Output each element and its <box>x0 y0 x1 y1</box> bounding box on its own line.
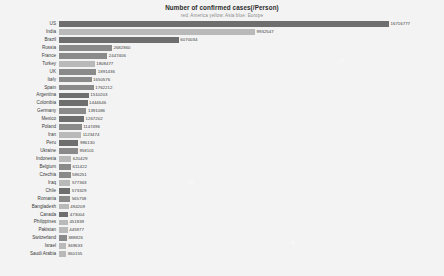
bar[interactable] <box>59 21 389 27</box>
category-label: Bangladesh <box>0 203 58 211</box>
category-label: Chile <box>0 187 58 195</box>
category-label: Romania <box>0 195 58 203</box>
bar[interactable] <box>59 124 82 130</box>
category-label: Mexico <box>0 115 58 123</box>
bar-row: France2447406 <box>0 52 444 60</box>
category-label: US <box>0 20 58 28</box>
bar-value-label: 9932547 <box>255 28 274 36</box>
bar-row: Iraq577363 <box>0 179 444 187</box>
bar[interactable] <box>59 116 84 122</box>
bar[interactable] <box>59 235 67 241</box>
bar-track: 1762212 <box>59 84 442 92</box>
bar[interactable] <box>59 212 68 218</box>
bar[interactable] <box>59 140 78 146</box>
bar-value-label: 2682860 <box>112 44 131 52</box>
category-label: Russia <box>0 44 58 52</box>
bar-value-label: 2447406 <box>107 52 126 60</box>
bar[interactable] <box>59 156 71 162</box>
bar-track: 1808477 <box>59 60 442 68</box>
category-label: Turkey <box>0 60 58 68</box>
bar[interactable] <box>59 220 68 226</box>
bar-track: 2447406 <box>59 52 442 60</box>
bar[interactable] <box>59 61 95 67</box>
bar[interactable] <box>59 132 81 138</box>
bar-track: 1123474 <box>59 131 442 139</box>
bar-track: 958101 <box>59 147 442 155</box>
bar-row: Switzerland388826 <box>0 234 444 242</box>
category-label: Philippines <box>0 218 58 226</box>
bar-row: Philippines451839 <box>0 218 444 226</box>
category-label: Israel <box>0 242 58 250</box>
bar[interactable] <box>59 148 78 154</box>
bar[interactable] <box>59 69 96 75</box>
bar[interactable] <box>59 243 66 249</box>
bar-track: 1891436 <box>59 68 442 76</box>
bar-value-label: 620429 <box>71 155 87 163</box>
bar-track: 1650576 <box>59 76 442 84</box>
category-label: Argentina <box>0 91 58 99</box>
bar-value-label: 6070034 <box>179 36 198 44</box>
category-label: Pakistan <box>0 226 58 234</box>
category-label: Belgium <box>0 163 58 171</box>
bar-row: Indonesia620429 <box>0 155 444 163</box>
bar-row: Argentina1510203 <box>0 91 444 99</box>
bar-track: 6070034 <box>59 36 442 44</box>
bar-value-label: 1123474 <box>81 131 99 139</box>
bar-value-label: 388826 <box>67 234 83 242</box>
bar-row: Spain1762212 <box>0 84 444 92</box>
bar[interactable] <box>59 37 179 43</box>
bar[interactable] <box>59 172 71 178</box>
bar-row: Romania565758 <box>0 195 444 203</box>
category-label: Iran <box>0 131 58 139</box>
bar-track: 2682860 <box>59 44 442 52</box>
bar[interactable] <box>59 108 86 114</box>
category-label: Czechia <box>0 171 58 179</box>
category-label: Iraq <box>0 179 58 187</box>
bar[interactable] <box>59 188 70 194</box>
bar-value-label: 986130 <box>78 139 94 147</box>
bar-value-label: 494209 <box>69 203 85 211</box>
bar-row: Russia2682860 <box>0 44 444 52</box>
bar[interactable] <box>59 251 66 257</box>
bar-row: Chile573329 <box>0 187 444 195</box>
bar-value-label: 1808477 <box>95 60 114 68</box>
bar-track: 360155 <box>59 250 442 258</box>
bar-value-label: 473004 <box>68 211 84 219</box>
bar[interactable] <box>59 29 255 35</box>
bar-row: Colombia1444646 <box>0 99 444 107</box>
bar-row: Pakistan445977 <box>0 226 444 234</box>
bar[interactable] <box>59 204 69 210</box>
bar[interactable] <box>59 227 68 233</box>
bar[interactable] <box>59 45 112 51</box>
category-label: Ukraine <box>0 147 58 155</box>
bar-track: 388826 <box>59 234 442 242</box>
category-label: Saudi Arabia <box>0 250 58 258</box>
bar[interactable] <box>59 196 70 202</box>
bar[interactable] <box>59 100 88 106</box>
category-label: Peru <box>0 139 58 147</box>
bar-value-label: 1510203 <box>89 91 108 99</box>
bar-row: US16716777 <box>0 20 444 28</box>
bar-value-label: 565758 <box>70 195 86 203</box>
bar-row: India9932547 <box>0 28 444 36</box>
bar-track: 1391086 <box>59 107 442 115</box>
bar-track: 9932547 <box>59 28 442 36</box>
bar-value-label: 573329 <box>70 187 86 195</box>
bar-row: Germany1391086 <box>0 107 444 115</box>
bar-value-label: 1391086 <box>86 107 105 115</box>
bar-row: Canada473004 <box>0 211 444 219</box>
bar[interactable] <box>59 164 71 170</box>
bar[interactable] <box>59 85 94 91</box>
bar[interactable] <box>59 180 70 186</box>
bar-track: 611422 <box>59 163 442 171</box>
bar[interactable] <box>59 77 92 83</box>
bar-row: Peru986130 <box>0 139 444 147</box>
category-label: Colombia <box>0 99 58 107</box>
bar[interactable] <box>59 93 89 99</box>
bar-row: UK1891436 <box>0 68 444 76</box>
bar[interactable] <box>59 53 107 59</box>
bar-track: 445977 <box>59 226 442 234</box>
chart-legend-subtitle: red: America yellow: Asia blue: Europe <box>0 12 444 19</box>
bar-value-label: 369633 <box>66 242 82 250</box>
chart-header: Number of confirmed cases(/Person) red: … <box>0 4 444 19</box>
